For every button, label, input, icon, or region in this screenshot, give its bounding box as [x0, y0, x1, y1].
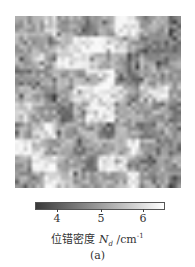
- label-unit: /cm: [113, 233, 137, 246]
- dislocation-density-heatmap: [15, 16, 181, 188]
- label-text: 位错密度: [51, 233, 99, 246]
- colorbar-tick-label: 5: [98, 212, 105, 225]
- label-symbol: N: [99, 233, 109, 246]
- figure-sublabel: (a): [0, 249, 195, 262]
- heatmap-canvas: [15, 16, 181, 188]
- colorbar: [35, 202, 165, 210]
- colorbar-tick-label: 4: [54, 212, 61, 225]
- label-superscript: -1: [137, 232, 144, 240]
- colorbar-label: 位错密度 Nd /cm-1: [0, 230, 195, 248]
- colorbar-tick-label: 6: [140, 212, 147, 225]
